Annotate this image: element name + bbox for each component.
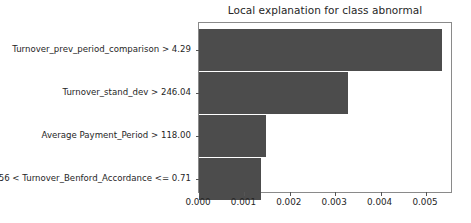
plot-area: [198, 22, 452, 193]
x-tick-label-2: 0.002: [276, 197, 301, 207]
bar-0[interactable]: [199, 29, 442, 71]
x-tick-mark-3: [335, 192, 336, 196]
bar-2[interactable]: [199, 115, 266, 157]
x-tick-label-1: 0.001: [231, 197, 256, 207]
x-tick-label-5: 0.005: [412, 197, 437, 207]
chart-title: Local explanation for class abnormal: [198, 4, 452, 16]
y-tick-label-1: Turnover_stand_dev > 246.04: [62, 88, 191, 97]
x-tick-mark-2: [290, 192, 291, 196]
x-tick-mark-5: [426, 192, 427, 196]
x-tick-label-0: 0.000: [185, 197, 210, 207]
x-tick-label-4: 0.004: [367, 197, 392, 207]
y-axis-tick-labels: Turnover_prev_period_comparison > 4.29 T…: [0, 22, 191, 193]
x-tick-mark-0: [199, 192, 200, 196]
x-tick-mark-4: [381, 192, 382, 196]
y-tick-label-2: Average Payment_Period > 118.00: [42, 131, 191, 140]
x-tick-mark-1: [244, 192, 245, 196]
bar-1[interactable]: [199, 72, 348, 114]
x-tick-label-3: 0.003: [322, 197, 347, 207]
y-tick-label-0: Turnover_prev_period_comparison > 4.29: [12, 45, 191, 54]
bar-3[interactable]: [199, 158, 261, 200]
y-tick-label-3: 0.56 < Turnover_Benford_Accordance <= 0.…: [0, 173, 191, 182]
figure-canvas: Local explanation for class abnormal Tur…: [0, 0, 471, 223]
